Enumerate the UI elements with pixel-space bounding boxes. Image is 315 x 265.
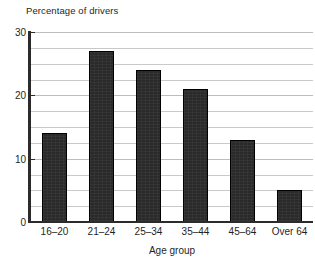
y-axis-title: Percentage of drivers [26, 5, 118, 16]
bar [136, 70, 162, 222]
bar [89, 51, 115, 222]
bar-chart-figure: Percentage of drivers 0102030 16–2021–24… [0, 0, 315, 265]
x-axis-title: Age group [31, 245, 313, 256]
x-axis-tick-label: 16–20 [31, 226, 78, 237]
y-axis-tick-mark [31, 32, 35, 33]
bars-layer [31, 32, 313, 222]
bar [183, 89, 209, 222]
y-axis-tick-label: 10 [2, 153, 26, 164]
bar [277, 190, 303, 222]
y-axis-tick-label: 0 [2, 217, 26, 228]
y-axis-tick-labels: 0102030 [0, 0, 26, 265]
y-axis-tick-label: 20 [2, 90, 26, 101]
y-axis-tick-label: 30 [2, 27, 26, 38]
y-axis-tick-mark [31, 222, 35, 223]
y-axis-tick-mark [31, 95, 35, 96]
x-axis-tick-label: Over 64 [266, 226, 313, 237]
y-axis-spine [28, 31, 31, 223]
x-axis-tick-label: 25–34 [125, 226, 172, 237]
y-axis-tick-mark [31, 159, 35, 160]
x-axis-tick-label: 45–64 [219, 226, 266, 237]
x-axis-spine [28, 221, 313, 223]
x-axis-tick-label: 21–24 [78, 226, 125, 237]
bar [42, 133, 68, 222]
bar [230, 140, 256, 222]
x-axis-tick-label: 35–44 [172, 226, 219, 237]
x-axis-tick-labels: 16–2021–2425–3435–4445–64Over 64 [31, 226, 313, 242]
